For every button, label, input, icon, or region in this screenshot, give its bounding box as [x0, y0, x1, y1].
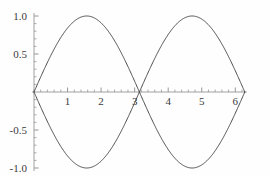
plot-canvas: 123456-1.0-0.50.51.0 [0, 0, 270, 175]
x-tick-label: 4 [165, 95, 171, 107]
y-tick-label: 0.5 [13, 48, 27, 60]
x-tick-label: 1 [65, 95, 71, 107]
x-tick-label: 2 [98, 95, 104, 107]
sine-plot: 123456-1.0-0.50.51.0 [0, 0, 270, 175]
y-tick-label: 1.0 [13, 10, 27, 22]
x-tick-label: 6 [233, 95, 239, 107]
y-tick-label: -0.5 [10, 124, 28, 136]
y-tick-label: -1.0 [10, 162, 28, 174]
x-tick-label: 5 [199, 95, 205, 107]
